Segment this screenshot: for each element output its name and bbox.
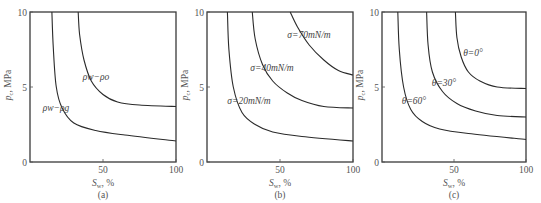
y-tick-label: 0 [22,158,27,168]
x-axis-label: Sw, % [443,178,465,189]
panel-c: 051050100pc, MPaSw, %(c)θ=0°θ=30°θ=60° [355,8,533,202]
y-tick-label: 5 [374,83,379,93]
curve-w-g [52,12,176,141]
curve-annotation: θ=60° [402,96,427,106]
curve-annotation: σ=40mN/m [250,63,293,73]
y-axis-label: pc, MPa [180,69,191,101]
curve-w-o [78,12,176,107]
y-tick-label: 10 [370,8,380,18]
curve-annotation: θ=0° [463,48,483,58]
y-tick-label: 10 [195,8,205,18]
y-axis-label: pc, MPa [355,69,366,101]
x-tick-label: 50 [449,165,459,175]
y-tick-label: 10 [18,8,28,18]
x-tick-label: 100 [519,165,534,175]
panel-b: 051050100pc, MPaSw, %(b)σ=70mN/mσ=40mN/m… [180,8,360,202]
curve-annotation: ρw−ρg [42,103,70,113]
panel-caption: (c) [449,190,460,201]
curve-annotation: ρw−ρo [82,72,110,82]
y-tick-label: 5 [22,83,27,93]
curve-annotation: σ=70mN/m [287,30,330,40]
curve-40mn-m [252,12,353,108]
panel-caption: (b) [274,190,285,201]
y-tick-label: 5 [199,83,204,93]
y-tick-label: 0 [374,158,379,168]
x-tick-label: 100 [346,165,361,175]
plot-frame [30,12,176,162]
x-tick-label: 50 [98,165,108,175]
x-axis-label: Sw, % [269,178,291,189]
panel-a: 051050100pc, MPaSw, %(a)ρw−ρoρw−ρg [3,8,183,202]
y-axis-label: pc, MPa [3,69,14,101]
x-axis-label: Sw, % [92,178,114,189]
curve-30 [427,12,526,117]
figure: 051050100pc, MPaSw, %(a)ρw−ρoρw−ρg 05105… [0,0,541,203]
x-tick-label: 50 [275,165,285,175]
curve-60 [398,12,526,140]
x-tick-label: 100 [169,165,184,175]
curve-annotation: σ=20mN/m [227,96,270,106]
curve-annotation: θ=30° [432,78,457,88]
panel-caption: (a) [98,190,109,201]
curve-70mn-m [290,12,353,75]
y-tick-label: 0 [199,158,204,168]
